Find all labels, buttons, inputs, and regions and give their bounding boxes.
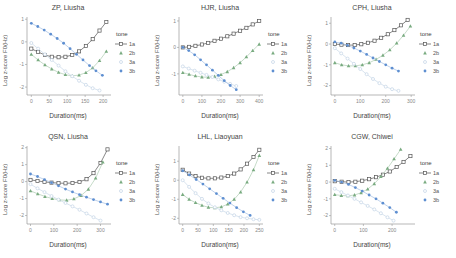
legend: tone 1a2b3a3b (114, 142, 152, 204)
panel-qsn-liusha: QSN, Liusha Log z-score F0(Hz) 010020030… (0, 129, 152, 258)
series-marker-3b (391, 67, 394, 70)
plot-area: 0100200210-1-2 (314, 142, 418, 236)
series-marker-3b (235, 88, 238, 91)
series-marker-3a (235, 85, 238, 88)
series-marker-3a (392, 219, 395, 222)
legend-item-3a: 3a (114, 57, 152, 66)
legend-item-label: 1a (433, 170, 439, 176)
series-marker-3b (368, 194, 371, 197)
series-marker-3b (205, 63, 208, 66)
series-marker-3b (381, 202, 384, 205)
series-marker-1a (188, 45, 191, 48)
legend-marker-2b (119, 180, 123, 183)
series-marker-3b (30, 22, 33, 25)
series-marker-3a (207, 202, 210, 205)
series-marker-3a (92, 216, 95, 219)
legend-marker-filled-circle-icon (418, 67, 432, 75)
legend-marker-open-circle-icon (418, 187, 432, 195)
series-marker-3b (384, 63, 387, 66)
series-marker-3a (50, 58, 53, 61)
y-tick-label: -1 (20, 195, 25, 201)
series-marker-3a (84, 83, 87, 86)
x-tick-label: 0 (30, 98, 33, 104)
series-marker-1a (251, 23, 254, 26)
series-marker-3a (57, 64, 60, 67)
series-marker-3a (379, 212, 382, 215)
legend-item-3b: 3b (114, 195, 152, 204)
x-tick-label: 100 (359, 227, 368, 233)
legend-title: tone (420, 31, 456, 37)
legend-item-3b: 3b (266, 66, 304, 75)
y-tick-label: -2 (20, 84, 25, 90)
series-marker-3a (64, 70, 67, 73)
series-marker-3b (361, 190, 364, 193)
series-marker-1a (380, 36, 383, 39)
series-marker-2b (333, 61, 337, 64)
legend-item-label: 3b (433, 197, 439, 203)
panel-cph-liusha: CPH, Liusha Log z-score F0(Hz) 010020030… (304, 0, 456, 129)
series-marker-1a (77, 50, 80, 53)
series-marker-1a (78, 180, 81, 183)
series-marker-1a (213, 39, 216, 42)
series-marker-3a (366, 204, 369, 207)
series-marker-3a (353, 197, 356, 200)
legend-marker-3b (120, 69, 123, 72)
legend-item-label: 3a (433, 188, 439, 194)
series-marker-3a (64, 201, 67, 204)
x-axis-label: Duration(ms) (178, 241, 262, 248)
series-marker-1a (194, 44, 197, 47)
series-marker-2b (258, 154, 262, 157)
series-marker-3a (213, 206, 216, 209)
series-marker-3a (391, 88, 394, 91)
series-marker-1a (245, 162, 248, 165)
y-tick-label: 1 (173, 158, 176, 164)
x-tick-label: 400 (255, 98, 264, 104)
series-marker-3b (95, 69, 98, 72)
legend-item-label: 1a (281, 41, 287, 47)
legend-marker-filled-circle-icon (114, 67, 128, 75)
series-marker-3b (71, 191, 74, 194)
panel-title: LHL, Liaoyuan (178, 132, 262, 142)
legend: tone 1a2b3a3b (418, 142, 456, 204)
series-marker-3a (181, 179, 184, 182)
y-tick-label: 1 (21, 161, 24, 167)
x-tick-label: 250 (255, 227, 264, 233)
series-marker-1a (98, 29, 101, 32)
x-tick-label: 0 (333, 98, 336, 104)
series-marker-1a (395, 165, 398, 168)
legend-item-label: 2b (129, 179, 135, 185)
y-tick-label: 0 (21, 39, 24, 45)
series-marker-1a (245, 26, 248, 29)
series-marker-2b (181, 193, 185, 196)
x-tick-label: 100 (63, 98, 72, 104)
panel-zp-liusha: ZP, Liusha Log z-score F0(Hz) 0501001502… (0, 0, 152, 129)
series-marker-3a (246, 217, 249, 220)
series-marker-3b (340, 42, 343, 45)
x-tick-label: 300 (96, 227, 105, 233)
series-marker-3b (57, 184, 60, 187)
panel-title: ZP, Liusha (26, 3, 110, 13)
y-tick-label: 1 (173, 18, 176, 24)
x-axis-label: Duration(ms) (178, 112, 262, 119)
legend-marker-filled-triangle-icon (266, 49, 280, 57)
legend-item-2b: 2b (266, 177, 304, 186)
series-marker-2b (181, 71, 185, 74)
legend-marker-1a (423, 42, 426, 45)
series-marker-1a (368, 178, 371, 181)
series-marker-2b (43, 63, 47, 66)
legend-marker-1a (119, 171, 122, 174)
x-tick-label: 100 (209, 227, 218, 233)
series-marker-3a (200, 197, 203, 200)
series-marker-3b (62, 42, 65, 45)
y-axis-label: Log z-score F0(Hz) (304, 142, 314, 236)
series-marker-3a (188, 185, 191, 188)
series-marker-1a (84, 44, 87, 47)
series-marker-1a (57, 182, 60, 185)
series-marker-3b (375, 197, 378, 200)
plot-area: 010020030040010-1 (162, 13, 266, 107)
legend-item-label: 3b (281, 68, 287, 74)
series-line-3b (335, 180, 397, 212)
legend-item-label: 1a (129, 41, 135, 47)
series-marker-3a (340, 191, 343, 194)
series-marker-1a (37, 50, 40, 53)
